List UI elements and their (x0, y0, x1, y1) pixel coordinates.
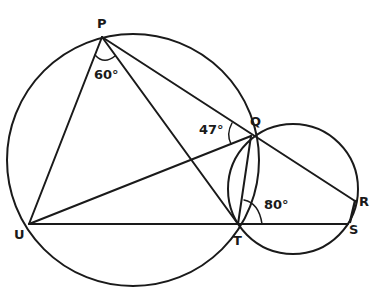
small-circle (228, 124, 358, 254)
segment-PU (29, 37, 102, 224)
point-label-R: R (359, 195, 369, 208)
point-label-U: U (14, 228, 25, 241)
point-label-S: S (349, 223, 358, 236)
geometry-diagram: P Q R S T U 60° 47° 80° (0, 0, 377, 302)
angle-label-60: 60° (94, 68, 119, 81)
angle-label-80: 80° (264, 198, 289, 211)
point-label-Q: Q (250, 115, 261, 128)
angle-arc-Q (229, 123, 232, 144)
point-label-P: P (97, 17, 107, 30)
point-label-T: T (233, 234, 242, 247)
angle-label-47: 47° (199, 123, 224, 136)
angle-arc-P (95, 55, 115, 60)
large-circle (7, 34, 259, 286)
diagram-svg (0, 0, 377, 302)
segment-UQ (29, 136, 251, 224)
